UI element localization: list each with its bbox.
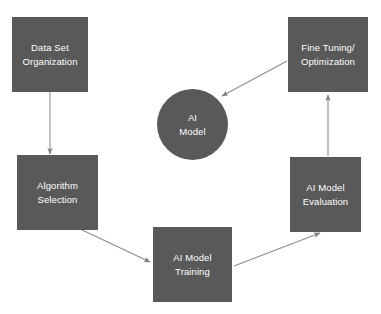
node-data-set-organization[interactable]: Data Set Organization <box>12 17 88 92</box>
diagram-canvas: Data Set Organization Algorithm Selectio… <box>0 0 381 314</box>
node-fine-tuning-optimization[interactable]: Fine Tuning/ Optimization <box>288 17 368 92</box>
node-label-ai-model: AI Model <box>176 111 208 138</box>
node-label-ai-model-training: AI Model Training <box>170 251 214 278</box>
node-label-data-set-organization: Data Set Organization <box>19 41 80 68</box>
node-ai-model-training[interactable]: AI Model Training <box>153 227 232 302</box>
node-label-algorithm-selection: Algorithm Selection <box>34 179 81 206</box>
node-label-ai-model-evaluation: AI Model Evaluation <box>300 181 351 208</box>
node-ai-model-evaluation[interactable]: AI Model Evaluation <box>290 157 361 232</box>
edge-finetuning-to-aimodel <box>222 61 287 96</box>
node-label-fine-tuning-optimization: Fine Tuning/ Optimization <box>298 41 358 68</box>
edge-training-to-evaluation <box>234 233 320 266</box>
node-ai-model[interactable]: AI Model <box>157 89 228 160</box>
edge-algorithm-to-training <box>78 228 150 262</box>
node-algorithm-selection[interactable]: Algorithm Selection <box>17 155 98 230</box>
